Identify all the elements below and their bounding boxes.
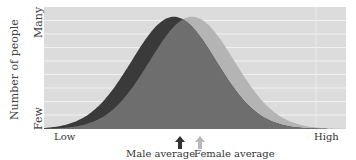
male-average-label: Male average [126, 148, 195, 159]
y-tick-many: Many [32, 7, 45, 38]
female-average-label: Female average [194, 148, 275, 159]
x-tick-high: High [314, 131, 339, 142]
y-tick-few: Few [32, 107, 45, 130]
y-axis-labels: Number of people Many Few [4, 20, 24, 130]
x-tick-low: Low [54, 131, 75, 142]
y-axis-title: Number of people [8, 19, 21, 120]
